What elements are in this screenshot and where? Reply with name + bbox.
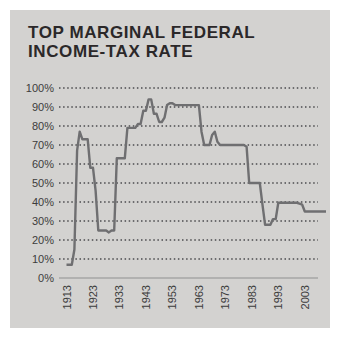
figure: TOP MARGINAL FEDERAL INCOME-TAX RATE 100… xyxy=(0,0,345,340)
y-tick-label: 20% xyxy=(32,234,54,246)
x-tick-label: 1973 xyxy=(219,285,231,309)
y-tick-label: 70% xyxy=(32,139,54,151)
y-tick-label: 90% xyxy=(32,101,54,113)
y-tick-label: 10% xyxy=(32,253,54,265)
x-tick-label: 1993 xyxy=(272,285,284,309)
y-tick-label: 0% xyxy=(38,272,54,284)
x-tick-label: 1983 xyxy=(246,285,258,309)
chart-panel: TOP MARGINAL FEDERAL INCOME-TAX RATE 100… xyxy=(10,10,330,328)
x-tick-label: 1943 xyxy=(140,285,152,309)
y-tick-label: 100% xyxy=(26,82,54,94)
y-tick-label: 80% xyxy=(32,120,54,132)
x-tick-label: 1913 xyxy=(61,285,73,309)
y-tick-label: 30% xyxy=(32,215,54,227)
y-tick-label: 50% xyxy=(32,177,54,189)
x-tick-label: 1963 xyxy=(193,285,205,309)
y-tick-label: 40% xyxy=(32,196,54,208)
x-tick-label: 1923 xyxy=(87,285,99,309)
x-tick-label: 2003 xyxy=(299,285,311,309)
x-tick-label: 1933 xyxy=(113,285,125,309)
line-chart: 100%90%80%70%60%50%40%30%20%10%0%1913192… xyxy=(10,10,330,328)
x-tick-label: 1953 xyxy=(166,285,178,309)
y-tick-label: 60% xyxy=(32,158,54,170)
